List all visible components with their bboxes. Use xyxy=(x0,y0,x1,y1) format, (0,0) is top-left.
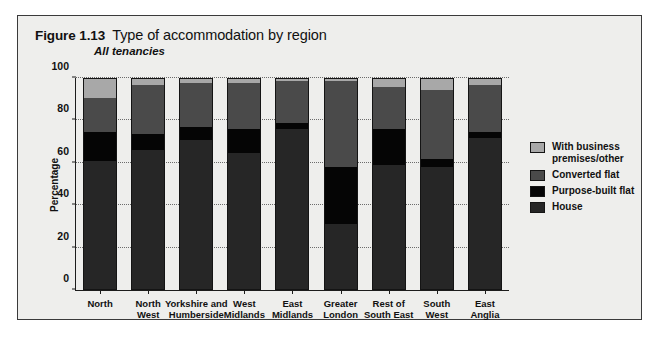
stacked-bar[interactable] xyxy=(420,78,454,290)
bar-segment[interactable] xyxy=(180,127,212,140)
bar-segment[interactable] xyxy=(132,85,164,133)
chart-plot-wrapper: Percentage 020406080100 NorthNorth WestY… xyxy=(75,78,509,291)
page-title: Type of accommodation by region xyxy=(112,27,327,43)
stacked-bar[interactable] xyxy=(372,78,406,290)
legend-item[interactable]: With business premises/other xyxy=(530,141,650,165)
bar-segment[interactable] xyxy=(325,167,357,224)
bar-column[interactable]: Rest of South East xyxy=(372,78,406,290)
bar-column[interactable]: Greater London xyxy=(324,78,358,290)
bar-segment[interactable] xyxy=(132,150,164,289)
bar-column[interactable]: West Midlands xyxy=(227,78,261,290)
x-axis-tick-mark xyxy=(244,290,245,294)
bar-segment[interactable] xyxy=(228,83,260,129)
bar-series-group: NorthNorth WestYorkshire and HumbersideW… xyxy=(76,78,509,290)
bar-segment[interactable] xyxy=(180,83,212,127)
stacked-bar[interactable] xyxy=(324,78,358,290)
bar-segment[interactable] xyxy=(132,134,164,151)
bar-column[interactable]: South West xyxy=(420,78,454,290)
bar-segment[interactable] xyxy=(276,81,308,123)
stacked-bar[interactable] xyxy=(227,78,261,290)
x-axis-tick-mark xyxy=(485,290,486,294)
legend-item-label: Converted flat xyxy=(552,169,619,181)
bar-column[interactable]: North xyxy=(83,78,117,290)
x-axis-tick-mark xyxy=(148,290,149,294)
legend-item-label: With business premises/other xyxy=(552,141,624,165)
legend-swatch-icon xyxy=(530,202,545,213)
y-axis-tick-label: 20 xyxy=(57,230,69,242)
figure-title-block: Figure 1.13 Type of accommodation by reg… xyxy=(35,27,515,57)
bar-segment[interactable] xyxy=(421,79,453,90)
bar-column[interactable]: North West xyxy=(131,78,165,290)
stacked-bar[interactable] xyxy=(131,78,165,290)
figure-subtitle: All tenancies xyxy=(94,45,515,57)
bar-segment[interactable] xyxy=(228,129,260,152)
figure-number: Figure 1.13 xyxy=(35,28,105,43)
bar-segment[interactable] xyxy=(228,153,260,290)
bar-segment[interactable] xyxy=(373,79,405,87)
chart-legend: With business premises/otherConverted fl… xyxy=(530,141,650,217)
y-axis-tick-label: 80 xyxy=(57,102,69,114)
bar-segment[interactable] xyxy=(421,90,453,159)
x-axis-tick-mark xyxy=(100,290,101,294)
bar-segment[interactable] xyxy=(421,159,453,167)
stacked-bar[interactable] xyxy=(179,78,213,290)
bar-segment[interactable] xyxy=(325,224,357,289)
bar-segment[interactable] xyxy=(325,81,357,167)
x-axis-tick-label: East Anglia xyxy=(448,298,522,320)
stacked-bar[interactable] xyxy=(83,78,117,290)
bar-segment[interactable] xyxy=(276,129,308,289)
legend-swatch-icon xyxy=(530,186,545,197)
title-line: Figure 1.13 Type of accommodation by reg… xyxy=(35,27,515,43)
y-axis-tick-label: 0 xyxy=(63,272,69,284)
x-axis-tick-mark xyxy=(341,290,342,294)
x-axis-tick-mark xyxy=(437,290,438,294)
bar-column[interactable]: East Anglia xyxy=(468,78,502,290)
x-axis-tick-mark xyxy=(292,290,293,294)
bar-segment[interactable] xyxy=(84,98,116,132)
x-axis-tick-mark xyxy=(196,290,197,294)
bar-segment[interactable] xyxy=(84,161,116,289)
stacked-bar[interactable] xyxy=(468,78,502,290)
legend-swatch-icon xyxy=(530,142,545,153)
bar-segment[interactable] xyxy=(421,167,453,289)
stacked-bar[interactable] xyxy=(275,78,309,290)
y-axis-title: Percentage xyxy=(49,158,60,212)
y-axis-tick-label: 60 xyxy=(57,145,69,157)
bar-column[interactable]: East Midlands xyxy=(275,78,309,290)
legend-item[interactable]: Purpose-built flat xyxy=(530,185,650,197)
y-axis-tick-label: 100 xyxy=(51,60,69,72)
bar-segment[interactable] xyxy=(373,87,405,129)
y-axis-tick-label: 40 xyxy=(57,187,69,199)
bar-segment[interactable] xyxy=(84,132,116,161)
legend-item[interactable]: House xyxy=(530,201,650,213)
chart-plot-area: 020406080100 NorthNorth WestYorkshire an… xyxy=(75,78,509,291)
bar-segment[interactable] xyxy=(469,138,501,289)
bar-segment[interactable] xyxy=(180,140,212,289)
bar-column[interactable]: Yorkshire and Humberside xyxy=(179,78,213,290)
bar-segment[interactable] xyxy=(373,129,405,165)
legend-item-label: House xyxy=(552,201,583,213)
legend-swatch-icon xyxy=(530,170,545,181)
bar-segment[interactable] xyxy=(84,79,116,98)
figure-panel: Figure 1.13 Type of accommodation by reg… xyxy=(17,15,642,320)
bar-segment[interactable] xyxy=(469,85,501,131)
legend-item-label: Purpose-built flat xyxy=(552,185,634,197)
x-axis-tick-mark xyxy=(389,290,390,294)
bar-segment[interactable] xyxy=(373,165,405,289)
legend-item[interactable]: Converted flat xyxy=(530,169,650,181)
